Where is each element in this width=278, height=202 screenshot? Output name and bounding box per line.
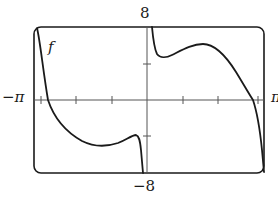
- function-graph: [0, 0, 278, 202]
- x-max-label: π: [271, 90, 278, 105]
- y-max-label: 8: [140, 6, 150, 21]
- function-name-label: f: [48, 40, 54, 55]
- y-min-label: −8: [133, 179, 155, 194]
- x-min-label: −π: [2, 90, 24, 105]
